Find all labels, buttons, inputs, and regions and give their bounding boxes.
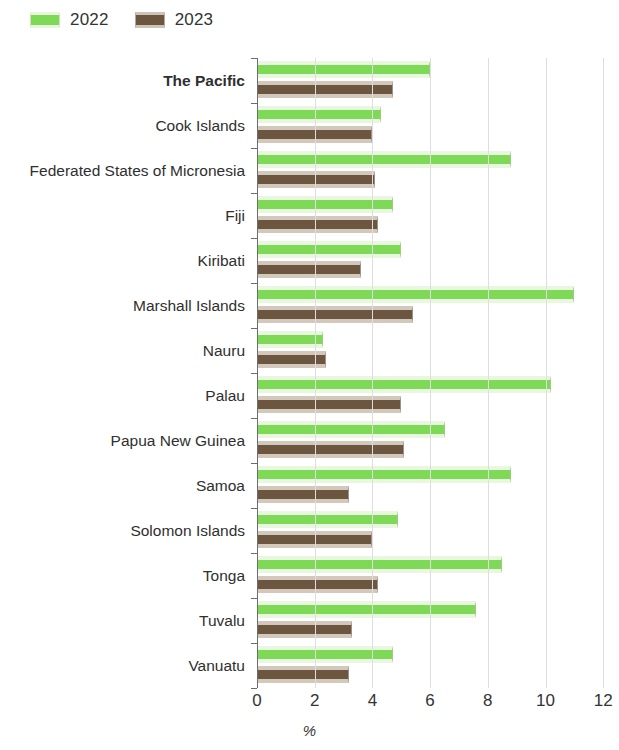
x-axis-tick-label: 10 [536,692,555,709]
x-axis-tick-label: 6 [425,692,434,709]
x-axis-tick-label: 8 [483,692,492,709]
x-axis-tick-label: 4 [368,692,377,709]
bar-2023 [257,666,349,683]
x-axis-tick-labels: 024681012 [0,692,619,720]
bar-2023 [257,351,326,368]
bar-2023 [257,441,404,458]
bar-2023 [257,261,361,278]
chart-legend: 2022 2023 [30,8,213,32]
y-axis-tick-mark [251,418,257,419]
bar-2022 [257,331,323,348]
bar-2023 [257,216,378,233]
bar-2022 [257,421,445,438]
bar-2022 [257,106,381,123]
y-axis-tick-mark [251,103,257,104]
bar-2022 [257,241,401,258]
y-axis-tick-mark [251,328,257,329]
gridline [488,58,489,688]
y-axis-tick-mark [251,148,257,149]
y-axis-tick-mark [251,643,257,644]
bars-layer [0,58,619,688]
legend-swatch-2022 [30,12,60,28]
x-axis-label: % [0,722,619,739]
y-axis-tick-mark [251,688,257,689]
bar-2023 [257,171,375,188]
y-axis-tick-mark [251,508,257,509]
x-axis-tick-label: 0 [252,692,261,709]
y-axis-tick-mark [251,193,257,194]
y-axis-tick-mark [251,283,257,284]
y-axis-tick-mark [251,373,257,374]
plot-area: The PacificCook IslandsFederated States … [0,58,619,692]
gridline [546,58,547,688]
bar-2022 [257,466,511,483]
legend-item-2022: 2022 [30,10,109,30]
bar-2023 [257,486,349,503]
bar-2022 [257,286,574,303]
bar-2022 [257,556,502,573]
y-axis-tick-mark [251,598,257,599]
bar-chart: 2022 2023 The PacificCook IslandsFederat… [0,0,619,750]
y-axis-tick-mark [251,238,257,239]
x-axis-tick-label: 12 [594,692,613,709]
y-axis-line [257,58,258,688]
y-axis-tick-mark [251,463,257,464]
bar-2022 [257,601,476,618]
gridline [430,58,431,688]
bar-2022 [257,511,398,528]
bar-2023 [257,621,352,638]
bar-2022 [257,376,551,393]
bar-2023 [257,576,378,593]
gridline [372,58,373,688]
x-axis-tick-label: 2 [310,692,319,709]
legend-swatch-2023 [135,12,165,28]
legend-label-2022: 2022 [70,10,109,30]
legend-label-2023: 2023 [175,10,214,30]
bar-2022 [257,151,511,168]
y-axis-tick-mark [251,553,257,554]
gridline [315,58,316,688]
x-axis-label-text: % [303,722,316,739]
bar-2023 [257,306,413,323]
bar-2022 [257,61,430,78]
legend-item-2023: 2023 [135,10,214,30]
y-axis-tick-mark [251,58,257,59]
gridline [603,58,604,688]
bar-2023 [257,396,401,413]
